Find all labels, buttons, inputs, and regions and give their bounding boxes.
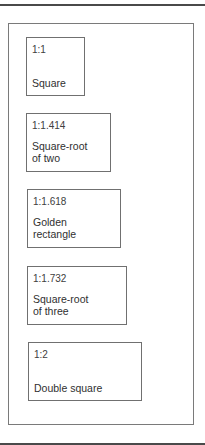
ratio-name: Golden rectangle [33,216,76,240]
rectangle-square: 1:1 Square [26,37,85,96]
rectangle-golden: 1:1.618 Golden rectangle [27,189,121,248]
ratio-label: 1:1.618 [33,196,66,208]
rectangle-double-square: 1:2 Double square [28,342,142,401]
ratio-name: Square-root of two [32,140,87,164]
ratio-label: 1:1.414 [32,120,65,132]
ratio-name: Square-root of three [33,293,88,317]
ratio-label: 1:2 [34,349,48,361]
rectangle-root-two: 1:1.414 Square-root of two [26,113,111,172]
ratio-label: 1:1 [32,44,46,56]
rectangle-root-three: 1:1.732 Square-root of three [27,266,127,325]
ratio-name: Double square [34,382,102,394]
ratio-label: 1:1.732 [33,273,66,285]
ratio-name: Square [32,77,66,89]
top-rule [0,4,205,6]
